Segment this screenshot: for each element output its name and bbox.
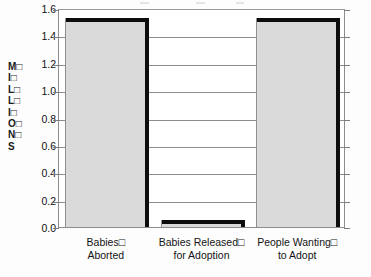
x-axis-category-label: Babies□Aborted bbox=[58, 236, 154, 270]
axis-tick-mark bbox=[344, 228, 350, 229]
bar bbox=[65, 18, 149, 227]
plot-area bbox=[58, 9, 345, 228]
y-axis-tick-label: 0.8 bbox=[41, 113, 56, 125]
scan-artifact bbox=[236, 2, 244, 4]
bar bbox=[161, 220, 245, 227]
category-label-line: to Adopt bbox=[249, 249, 345, 262]
y-axis-label-char: M□ bbox=[8, 61, 22, 72]
y-axis-tick-label: 1.6 bbox=[41, 3, 56, 15]
y-axis-label-char: L□ bbox=[8, 95, 20, 106]
axis-tick-mark bbox=[344, 65, 350, 66]
y-axis-label-char: I□ bbox=[8, 107, 17, 118]
y-axis-tick-label: 0.6 bbox=[41, 140, 56, 152]
scan-artifact bbox=[140, 2, 149, 4]
bar-top-edge bbox=[257, 18, 340, 22]
axis-tick-mark bbox=[53, 120, 59, 121]
y-axis-label-char: I□ bbox=[8, 72, 17, 83]
axis-tick-mark bbox=[344, 92, 350, 93]
bar-right-edge bbox=[241, 220, 245, 227]
axis-tick-mark bbox=[344, 202, 350, 203]
axis-tick-mark bbox=[53, 147, 59, 148]
axis-tick-mark bbox=[53, 202, 59, 203]
y-axis-label-char: S bbox=[8, 141, 15, 152]
category-label-line: Babies Released□ bbox=[154, 236, 250, 249]
y-axis-label-char: O□ bbox=[8, 118, 22, 129]
axis-tick-mark bbox=[344, 174, 350, 175]
axis-tick-mark bbox=[53, 174, 59, 175]
y-axis-tick-label: 0.4 bbox=[41, 167, 56, 179]
category-label-line: Babies□ bbox=[58, 236, 154, 249]
axis-tick-mark bbox=[344, 37, 350, 38]
y-axis-tick-label: 0.2 bbox=[41, 195, 56, 207]
scan-artifact bbox=[196, 2, 205, 4]
bar-right-edge bbox=[336, 18, 340, 227]
category-label-line: People Wanting□ bbox=[249, 236, 345, 249]
category-label-line: for Adoption bbox=[154, 249, 250, 262]
x-axis-category-label: People Wanting□to Adopt bbox=[249, 236, 345, 270]
y-axis-tick-label: 1.4 bbox=[41, 30, 56, 42]
y-axis-tick-label: 1.2 bbox=[41, 58, 56, 70]
bar-chart: M□I□L□L□I□O□N□S 0.00.20.40.60.81.01.21.4… bbox=[0, 0, 371, 277]
axis-tick-mark bbox=[53, 92, 59, 93]
bar bbox=[256, 18, 340, 227]
axis-tick-mark bbox=[344, 120, 350, 121]
bar-top-edge bbox=[66, 18, 149, 22]
x-axis-category-label: Babies Released□for Adoption bbox=[154, 236, 250, 270]
axis-tick-mark bbox=[344, 147, 350, 148]
bar-right-edge bbox=[145, 18, 149, 227]
axis-tick-mark bbox=[53, 10, 59, 11]
category-label-line: Aborted bbox=[58, 249, 154, 262]
axis-tick-mark bbox=[344, 10, 350, 11]
axis-tick-mark bbox=[53, 37, 59, 38]
y-axis-label-char: L□ bbox=[8, 84, 20, 95]
y-axis-label-char: N□ bbox=[8, 129, 21, 140]
y-axis-tick-label: 1.0 bbox=[41, 85, 56, 97]
x-axis-category-labels: Babies□AbortedBabies Released□for Adopti… bbox=[58, 236, 345, 270]
bar-top-edge bbox=[162, 220, 245, 224]
y-axis-tick-labels: 0.00.20.40.60.81.01.21.41.6 bbox=[30, 9, 56, 228]
axis-tick-mark bbox=[53, 65, 59, 66]
axis-tick-mark bbox=[53, 228, 59, 229]
